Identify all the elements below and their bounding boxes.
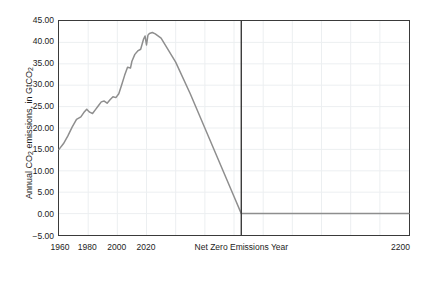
- y-axis-tick-label: 20.00: [0, 124, 54, 133]
- plot-area: [58, 20, 410, 236]
- y-axis-tick-label: 10.00: [0, 167, 54, 176]
- net-zero-marker-line: [59, 21, 409, 235]
- y-axis-tick-label: 25.00: [0, 102, 54, 111]
- x-axis-tick-label: 2020: [137, 243, 156, 252]
- y-axis-tick-label: 0.00: [0, 210, 54, 219]
- x-axis-tick-label: 1980: [78, 243, 97, 252]
- y-axis-tick-label: 35.00: [0, 59, 54, 68]
- y-axis-tick-label: −5.00: [0, 232, 54, 241]
- net-zero-axis-label: Net Zero Emissions Year: [195, 243, 289, 252]
- y-axis-tick-label: 15.00: [0, 145, 54, 154]
- emissions-chart: Annual CO2 emissions, in GtCO2 45.0040.0…: [0, 0, 426, 286]
- x-axis-tick-label: 1960: [51, 243, 70, 252]
- y-axis-tick-label: 30.00: [0, 80, 54, 89]
- y-axis-tick-label: 45.00: [0, 16, 54, 25]
- y-axis-tick-label: 40.00: [0, 37, 54, 46]
- x-axis-tick-label: 2200: [391, 243, 410, 252]
- y-axis-title-sub-2: 2: [27, 67, 34, 71]
- y-axis-tick-label: 5.00: [0, 188, 54, 197]
- x-axis-tick-label: 2000: [107, 243, 126, 252]
